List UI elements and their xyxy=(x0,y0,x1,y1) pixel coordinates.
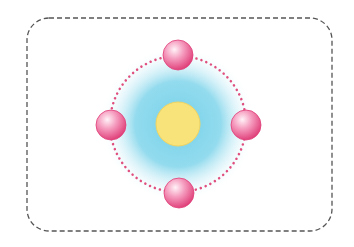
atom-diagram-canvas xyxy=(0,0,354,247)
nucleus xyxy=(156,102,200,146)
electron-left xyxy=(96,110,126,140)
electron-bottom xyxy=(164,178,194,208)
electron-top xyxy=(163,40,193,70)
electron-right xyxy=(231,110,261,140)
atom-diagram xyxy=(0,0,354,247)
